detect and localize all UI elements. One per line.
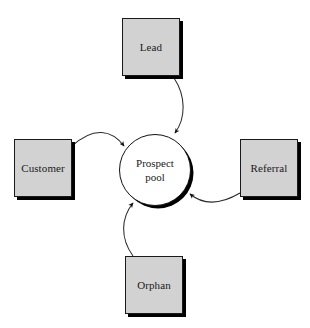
edge-orphan-to-hub [124,203,133,256]
node-lead[interactable]: Lead [122,18,180,76]
node-lead-label: Lead [140,41,162,53]
node-referral[interactable]: Referral [240,139,298,197]
node-orphan-label: Orphan [137,279,171,291]
node-referral-label: Referral [251,162,288,174]
prospect-pool-diagram: Lead Customer Referral Orphan Prospect p… [0,0,310,328]
edge-lead-to-hub [174,78,183,133]
edge-referral-to-hub [190,193,240,202]
edge-customer-to-hub [72,132,124,146]
node-prospect-pool[interactable]: Prospect pool [119,134,191,206]
node-prospect-pool-label: Prospect pool [136,156,174,184]
node-orphan[interactable]: Orphan [125,256,183,314]
node-customer[interactable]: Customer [14,139,72,197]
node-customer-label: Customer [21,162,65,174]
